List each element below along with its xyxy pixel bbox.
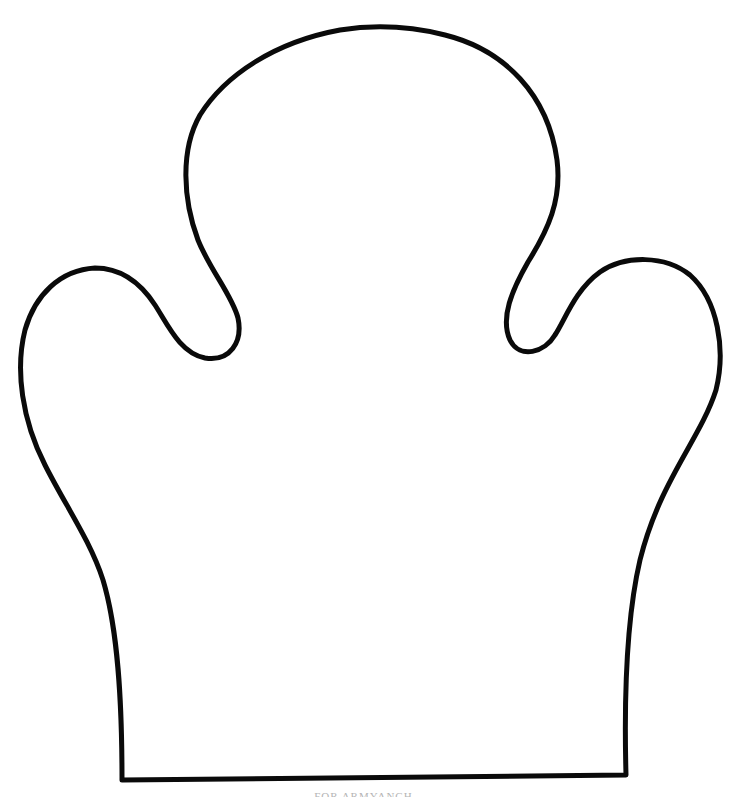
template-canvas — [0, 0, 738, 797]
footer-caption: FOR ARMYANCH... — [0, 789, 738, 797]
crown-outline-shape — [21, 27, 721, 780]
